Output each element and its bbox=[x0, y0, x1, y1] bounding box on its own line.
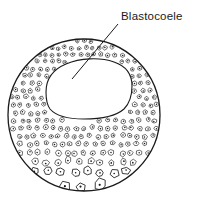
cell-nucleus bbox=[97, 137, 99, 139]
cell-nucleus bbox=[46, 142, 48, 144]
cell-nucleus bbox=[123, 153, 125, 155]
cell-nucleus bbox=[87, 54, 89, 56]
cell-nucleus bbox=[107, 119, 109, 121]
cell-nucleus bbox=[52, 60, 54, 62]
cell-nucleus bbox=[76, 128, 78, 130]
cell-nucleus bbox=[58, 54, 60, 56]
cell-nucleus bbox=[152, 112, 154, 114]
cell-nucleus bbox=[36, 103, 38, 105]
cell-nucleus bbox=[67, 152, 69, 154]
cell-nucleus bbox=[22, 82, 24, 84]
cell-nucleus bbox=[132, 69, 134, 71]
cell-nucleus bbox=[150, 90, 152, 92]
cell-nucleus bbox=[83, 128, 85, 130]
cell-nucleus bbox=[138, 75, 140, 77]
cell-nucleus bbox=[34, 160, 36, 162]
cell-nucleus bbox=[26, 136, 28, 138]
cell-nucleus bbox=[58, 153, 60, 155]
cell-nucleus bbox=[134, 83, 136, 85]
cell-nucleus bbox=[98, 120, 100, 122]
cell-nucleus bbox=[80, 136, 82, 138]
cell-nucleus bbox=[38, 83, 40, 85]
cell-nucleus bbox=[54, 69, 56, 71]
cell-nucleus bbox=[136, 142, 138, 144]
cell-nucleus bbox=[92, 126, 94, 128]
cell-nucleus bbox=[47, 169, 49, 171]
cell-nucleus bbox=[92, 153, 94, 155]
cell-nucleus bbox=[44, 60, 46, 62]
cell-nucleus bbox=[105, 136, 107, 138]
cell-nucleus bbox=[58, 60, 60, 62]
cell-nucleus bbox=[43, 103, 45, 105]
cell-nucleus bbox=[146, 98, 148, 100]
cell-nucleus bbox=[122, 55, 124, 57]
cell-nucleus bbox=[38, 74, 40, 76]
cell-nucleus bbox=[144, 143, 146, 145]
blastula-diagram: Blastocoele bbox=[0, 0, 203, 204]
cell-nucleus bbox=[139, 68, 141, 70]
cell-nucleus bbox=[37, 113, 39, 115]
cell-nucleus bbox=[147, 82, 149, 84]
cell-nucleus bbox=[15, 89, 17, 91]
cell-nucleus bbox=[29, 127, 31, 129]
cell-nucleus bbox=[132, 162, 134, 164]
cell-nucleus bbox=[131, 76, 133, 78]
cell-nucleus bbox=[24, 75, 26, 77]
blastula-figure: Blastocoele bbox=[0, 0, 203, 204]
cell-nucleus bbox=[30, 113, 32, 115]
cell-nucleus bbox=[19, 143, 21, 145]
cell-nucleus bbox=[82, 152, 84, 154]
cell-nucleus bbox=[29, 74, 31, 76]
cell-nucleus bbox=[86, 46, 88, 48]
cell-nucleus bbox=[127, 60, 129, 62]
cell-nucleus bbox=[137, 111, 139, 113]
cell-nucleus bbox=[129, 111, 131, 113]
cell-nucleus bbox=[156, 128, 158, 130]
cell-nucleus bbox=[30, 144, 32, 146]
cell-nucleus bbox=[36, 127, 38, 129]
cell-nucleus bbox=[60, 128, 62, 130]
cell-nucleus bbox=[64, 185, 66, 187]
cell-nucleus bbox=[64, 46, 66, 48]
cell-nucleus bbox=[89, 134, 91, 136]
cell-nucleus bbox=[127, 143, 129, 145]
cell-nucleus bbox=[73, 153, 75, 155]
cell-nucleus bbox=[99, 172, 101, 174]
cell-nucleus bbox=[22, 90, 24, 92]
cell-nucleus bbox=[17, 97, 19, 99]
cell-nucleus bbox=[138, 152, 140, 154]
cell-nucleus bbox=[42, 135, 44, 137]
cell-nucleus bbox=[28, 104, 30, 106]
cell-nucleus bbox=[123, 160, 125, 162]
cell-nucleus bbox=[80, 54, 82, 56]
cell-nucleus bbox=[60, 171, 62, 173]
cell-nucleus bbox=[20, 127, 22, 129]
cell-nucleus bbox=[37, 88, 39, 90]
cell-nucleus bbox=[25, 96, 27, 98]
cell-nucleus bbox=[147, 128, 149, 130]
cell-nucleus bbox=[102, 152, 104, 154]
cell-nucleus bbox=[110, 152, 112, 154]
cell-nucleus bbox=[152, 134, 154, 136]
cell-nucleus bbox=[104, 47, 106, 49]
cell-nucleus bbox=[153, 121, 155, 123]
cell-nucleus bbox=[99, 162, 101, 164]
cell-nucleus bbox=[136, 136, 138, 138]
cell-nucleus bbox=[85, 143, 87, 145]
cell-nucleus bbox=[46, 151, 48, 153]
cell-nucleus bbox=[142, 90, 144, 92]
cell-nucleus bbox=[53, 127, 55, 129]
cell-nucleus bbox=[123, 120, 125, 122]
cell-nucleus bbox=[129, 135, 131, 137]
cell-nucleus bbox=[144, 136, 146, 138]
cell-nucleus bbox=[67, 128, 69, 130]
cell-nucleus bbox=[40, 69, 42, 71]
cell-nucleus bbox=[67, 160, 69, 162]
cell-nucleus bbox=[52, 120, 54, 122]
blastocoele-label: Blastocoele bbox=[121, 10, 183, 22]
cell-nucleus bbox=[95, 143, 97, 145]
cell-nucleus bbox=[78, 161, 80, 163]
cell-nucleus bbox=[36, 60, 38, 62]
cell-nucleus bbox=[91, 47, 93, 49]
cell-nucleus bbox=[90, 160, 92, 162]
